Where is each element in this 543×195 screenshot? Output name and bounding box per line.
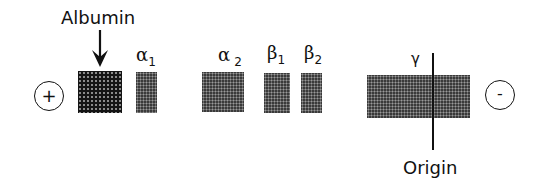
origin-line — [432, 53, 434, 150]
beta2-label: β2 — [304, 42, 322, 67]
alpha2-band — [202, 72, 244, 112]
origin-label: Origin — [403, 157, 457, 178]
anode-plus-icon: + — [34, 81, 64, 111]
cathode-minus-icon: - — [485, 80, 515, 110]
beta2-band — [301, 73, 322, 113]
alpha1-label: α1 — [136, 44, 156, 69]
arrow-down-icon — [90, 30, 110, 68]
beta1-band — [264, 73, 290, 113]
alpha2-label: α2 — [218, 44, 242, 69]
cathode-symbol: - — [497, 86, 503, 102]
alpha1-band — [136, 72, 157, 113]
gamma-label: γ — [411, 50, 420, 68]
albumin-band — [78, 71, 122, 113]
anode-symbol: + — [41, 87, 56, 105]
beta1-label: β1 — [267, 42, 285, 67]
gamma-band — [367, 75, 470, 118]
albumin-label: Albumin — [61, 7, 135, 28]
